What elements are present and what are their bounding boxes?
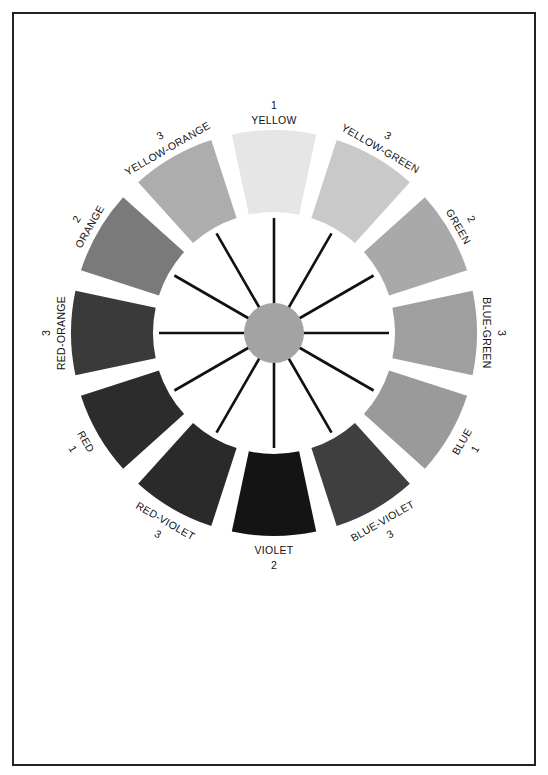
segment-order-number: 1 xyxy=(67,443,80,454)
segment-order-number: 3 xyxy=(154,129,165,142)
spoke-line xyxy=(217,233,261,308)
segment-label: BLUE-GREEN xyxy=(481,297,493,368)
segment-blue-green xyxy=(392,291,477,375)
segment-order-number: 1 xyxy=(271,99,277,111)
segment-order-number: 3 xyxy=(383,129,394,142)
spoke-line xyxy=(217,357,261,432)
segment-label: VIOLET xyxy=(254,544,293,556)
segment-label: RED-ORANGE xyxy=(55,296,67,370)
segment-order-number: 3 xyxy=(384,527,395,540)
color-wheel-diagram: YELLOW1YELLOW-GREEN3GREEN2BLUE-GREEN3BLU… xyxy=(0,0,548,775)
segment-red-orange xyxy=(71,291,156,375)
segment-violet xyxy=(232,451,316,536)
spoke-line xyxy=(298,276,373,320)
spoke-line xyxy=(174,276,249,320)
segment-yellow xyxy=(232,130,316,215)
spoke-line xyxy=(298,347,373,391)
segment-order-number: 1 xyxy=(468,443,481,454)
segment-order-number: 3 xyxy=(40,330,52,336)
segment-order-number: 2 xyxy=(465,213,478,224)
spoke-line xyxy=(174,347,249,391)
segment-order-number: 3 xyxy=(496,330,508,336)
segment-label: RED xyxy=(75,428,97,454)
center-hub xyxy=(244,303,304,363)
spoke-line xyxy=(288,233,332,308)
segment-label: YELLOW xyxy=(251,114,297,126)
spoke-line xyxy=(288,357,332,432)
segment-label: BLUE xyxy=(449,426,474,457)
segment-order-number: 2 xyxy=(70,213,83,224)
segment-order-number: 3 xyxy=(153,527,164,540)
segment-order-number: 2 xyxy=(271,559,277,571)
